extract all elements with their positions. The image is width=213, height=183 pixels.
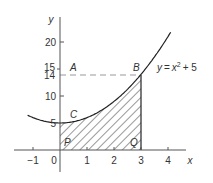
y-tick-label: 10 [45,91,57,102]
area-under-curve-diagram: −1 0 1 2 3 4 x 5 10 14 15 20 y A B C P Q… [0,0,213,183]
point-label-q: Q [130,137,138,148]
y-tick-label: 15 [44,62,56,73]
point-label-b: B [133,62,140,73]
x-tick-label: 2 [111,155,117,166]
equation-label: y=x2+ 5 [156,61,197,73]
point-label-a: A [69,62,77,73]
x-tick-label: 1 [84,155,90,166]
x-tick-label: 4 [165,155,171,166]
y-tick-label: 5 [50,118,56,129]
point-label-c: C [70,109,78,120]
x-tick-label: 0 [51,155,57,166]
x-tick-label: −1 [27,155,39,166]
point-label-p: P [64,137,71,148]
y-axis-label: y [48,14,55,25]
y-tick-label: 20 [45,37,57,48]
x-axis-label: x [187,155,194,166]
x-tick-label: 3 [138,155,144,166]
